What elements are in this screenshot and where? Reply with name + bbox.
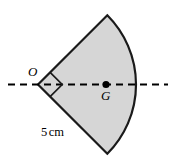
radius-label: 5cm [41,126,64,139]
radius-value: 5 [41,125,47,139]
centroid-label-g: G [101,89,110,102]
geometry-figure: O G 5cm [0,0,172,168]
vertex-label-o: O [28,65,37,78]
radius-unit: cm [49,125,64,139]
sector-diagram-svg [0,0,172,168]
